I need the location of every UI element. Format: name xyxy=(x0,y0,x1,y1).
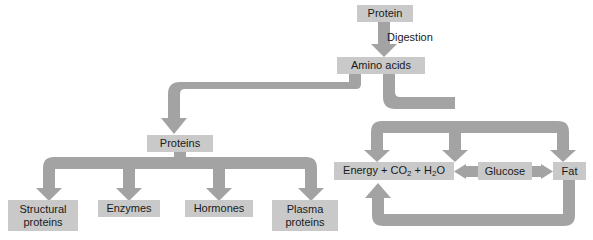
edge-label-digestion-text: Digestion xyxy=(387,31,433,43)
node-plasma-proteins: Plasma proteins xyxy=(272,200,338,231)
edge-amino-acids-to-metabolism-bar xyxy=(383,74,455,109)
node-enzymes-label: Enzymes xyxy=(106,202,151,215)
node-glucose-label: Glucose xyxy=(485,165,525,178)
formula-h2o-o: O xyxy=(436,164,445,176)
edge-proteins-distribution xyxy=(36,150,324,201)
node-glucose: Glucose xyxy=(478,162,532,180)
node-fat-label: Fat xyxy=(562,165,578,178)
formula-h2o-h: H xyxy=(424,164,432,176)
node-fat: Fat xyxy=(553,162,586,180)
node-hormones-label: Hormones xyxy=(194,202,245,215)
node-energy-co2-h2o-formula: Energy + CO2 + H2O xyxy=(343,164,445,179)
node-energy-co2-h2o: Energy + CO2 + H2O xyxy=(334,162,454,180)
edge-glucose-to-energy xyxy=(454,164,478,179)
node-structural-proteins-line1: Structural xyxy=(19,203,66,216)
node-proteins: Proteins xyxy=(147,135,213,152)
formula-co2-subscript: 2 xyxy=(407,169,411,178)
node-protein: Protein xyxy=(357,5,413,22)
edge-fat-to-energy-loop xyxy=(365,180,575,226)
metabolism-flow-diagram: Protein Digestion Amino acids Proteins S… xyxy=(0,0,593,240)
node-proteins-label: Proteins xyxy=(160,137,200,150)
node-amino-acids-label: Amino acids xyxy=(351,59,411,72)
node-enzymes: Enzymes xyxy=(98,200,160,217)
node-protein-label: Protein xyxy=(368,7,403,20)
formula-energy: Energy xyxy=(343,164,378,176)
edge-metabolism-distribution xyxy=(364,121,576,162)
edge-label-digestion: Digestion xyxy=(387,31,433,43)
formula-h2o-subscript: 2 xyxy=(432,169,436,178)
edge-amino-acids-to-proteins xyxy=(161,74,361,134)
edge-glucose-to-fat xyxy=(532,164,553,179)
formula-co2-base: CO xyxy=(390,164,407,176)
node-amino-acids: Amino acids xyxy=(337,57,425,74)
node-plasma-proteins-line2: proteins xyxy=(285,216,324,229)
node-plasma-proteins-line1: Plasma xyxy=(287,203,324,216)
node-structural-proteins: Structural proteins xyxy=(8,200,78,231)
node-structural-proteins-line2: proteins xyxy=(23,216,62,229)
node-hormones: Hormones xyxy=(185,200,253,217)
